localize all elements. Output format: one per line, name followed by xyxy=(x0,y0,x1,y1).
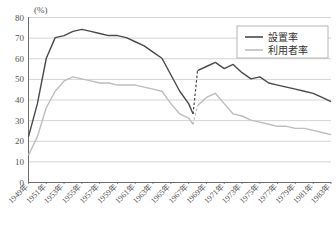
y-tick-label: 40 xyxy=(15,95,25,105)
y-tick-label: 30 xyxy=(15,116,25,126)
y-tick-label: 60 xyxy=(15,54,25,64)
y-tick-label: 70 xyxy=(15,33,25,43)
legend-label-設置率: 設置率 xyxy=(268,31,298,43)
y-axis-unit-label: (%) xyxy=(34,5,48,15)
legend-label-利用者率: 利用者率 xyxy=(268,44,308,56)
line-chart: 01020304050607080 (%) 1949年1951年1953年195… xyxy=(0,0,336,229)
chart-legend: 設置率利用者率 xyxy=(237,26,328,58)
chart-container: 01020304050607080 (%) 1949年1951年1953年195… xyxy=(0,0,336,229)
y-tick-label: 80 xyxy=(15,13,25,23)
y-axis-tick-labels: 01020304050607080 xyxy=(15,13,25,188)
y-tick-label: 20 xyxy=(15,136,25,146)
y-tick-label: 50 xyxy=(15,74,25,84)
y-tick-label: 10 xyxy=(15,157,25,167)
